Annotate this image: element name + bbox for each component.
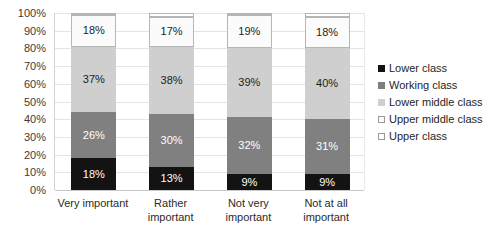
bar-segment-value-label: 17% bbox=[161, 26, 183, 37]
y-axis-tick-label: 100% bbox=[18, 8, 46, 19]
bar-segment-working-class[interactable]: 31% bbox=[305, 119, 350, 174]
legend-swatch-icon bbox=[378, 99, 385, 106]
x-axis-category-label: Very important bbox=[54, 196, 132, 210]
bar-segment-upper-middle-class[interactable]: 18% bbox=[71, 15, 116, 47]
stacked-bar[interactable]: 13%30%38%17% bbox=[149, 13, 194, 190]
legend-item[interactable]: Upper class bbox=[378, 128, 496, 144]
bar-segment-lower-class[interactable]: 9% bbox=[305, 174, 350, 190]
bar-segment-upper-class[interactable] bbox=[71, 13, 116, 15]
bar-segment-upper-class[interactable] bbox=[149, 13, 194, 17]
legend-item[interactable]: Lower middle class bbox=[378, 94, 496, 110]
x-axis-category-label: Not very important bbox=[210, 196, 288, 224]
y-axis-tick-label: 60% bbox=[24, 78, 46, 89]
bar-segment-value-label: 30% bbox=[161, 135, 183, 146]
bar-segment-upper-class[interactable] bbox=[305, 13, 350, 17]
bar-segment-upper-middle-class[interactable]: 19% bbox=[227, 15, 272, 49]
y-axis-tick-label: 80% bbox=[24, 43, 46, 54]
chart-legend: Lower classWorking classLower middle cla… bbox=[378, 60, 496, 145]
bar-segment-working-class[interactable]: 26% bbox=[71, 112, 116, 158]
bar-segment-value-label: 18% bbox=[83, 25, 105, 36]
y-axis: 0%10%20%30%40%50%60%70%80%90%100% bbox=[0, 13, 50, 190]
stacked-bar[interactable]: 9%32%39%19% bbox=[227, 13, 272, 190]
x-axis-category-label: Not at all important bbox=[287, 196, 365, 224]
legend-item[interactable]: Lower class bbox=[378, 60, 496, 76]
legend-swatch-icon bbox=[378, 65, 385, 72]
bar-group[interactable]: 9%31%40%18% bbox=[305, 13, 350, 190]
bar-segment-value-label: 19% bbox=[238, 26, 260, 37]
y-axis-tick-label: 20% bbox=[24, 149, 46, 160]
bar-segment-value-label: 26% bbox=[83, 130, 105, 141]
bar-group[interactable]: 13%30%38%17% bbox=[149, 13, 194, 190]
bar-segment-value-label: 31% bbox=[316, 141, 338, 152]
plot-area: 18%26%37%18%13%30%38%17%9%32%39%19%9%31%… bbox=[54, 13, 365, 190]
bar-segment-value-label: 37% bbox=[83, 74, 105, 85]
bar-segment-lower-class[interactable]: 18% bbox=[71, 158, 116, 190]
y-axis-tick-label: 90% bbox=[24, 25, 46, 36]
bar-segment-working-class[interactable]: 32% bbox=[227, 117, 272, 174]
legend-label: Lower middle class bbox=[389, 97, 483, 108]
bar-segment-lower-class[interactable]: 9% bbox=[227, 174, 272, 190]
y-axis-tick-label: 70% bbox=[24, 61, 46, 72]
bar-segment-value-label: 32% bbox=[238, 140, 260, 151]
bar-segment-lower-middle-class[interactable]: 39% bbox=[227, 48, 272, 117]
bar-segment-value-label: 9% bbox=[241, 177, 257, 188]
bar-group[interactable]: 9%32%39%19% bbox=[227, 13, 272, 190]
legend-swatch-icon bbox=[378, 82, 385, 89]
stacked-bar-chart: 0%10%20%30%40%50%60%70%80%90%100% 18%26%… bbox=[0, 0, 497, 240]
stacked-bar[interactable]: 18%26%37%18% bbox=[71, 13, 116, 190]
bar-segment-value-label: 9% bbox=[319, 177, 335, 188]
bar-segment-value-label: 39% bbox=[238, 77, 260, 88]
bar-segment-value-label: 18% bbox=[316, 27, 338, 38]
bar-segment-lower-middle-class[interactable]: 37% bbox=[71, 47, 116, 112]
bar-segment-value-label: 13% bbox=[161, 173, 183, 184]
bar-segment-value-label: 38% bbox=[161, 75, 183, 86]
legend-swatch-icon bbox=[378, 133, 385, 140]
y-axis-tick-label: 50% bbox=[24, 96, 46, 107]
bar-segment-lower-middle-class[interactable]: 38% bbox=[149, 47, 194, 114]
bar-segment-value-label: 18% bbox=[83, 169, 105, 180]
y-axis-tick-label: 30% bbox=[24, 131, 46, 142]
bar-group[interactable]: 18%26%37%18% bbox=[71, 13, 116, 190]
bar-segment-lower-middle-class[interactable]: 40% bbox=[305, 48, 350, 119]
stacked-bar[interactable]: 9%31%40%18% bbox=[305, 13, 350, 190]
y-axis-tick-label: 0% bbox=[30, 185, 46, 196]
legend-item[interactable]: Upper middle class bbox=[378, 111, 496, 127]
legend-label: Lower class bbox=[389, 63, 447, 74]
legend-label: Upper middle class bbox=[389, 114, 483, 125]
y-axis-tick-label: 10% bbox=[24, 167, 46, 178]
bar-segment-lower-class[interactable]: 13% bbox=[149, 167, 194, 190]
legend-item[interactable]: Working class bbox=[378, 77, 496, 93]
bar-segment-value-label: 40% bbox=[316, 78, 338, 89]
bar-segment-upper-middle-class[interactable]: 18% bbox=[305, 17, 350, 49]
legend-label: Working class bbox=[389, 80, 457, 91]
legend-label: Upper class bbox=[389, 131, 447, 142]
bar-segment-upper-class[interactable] bbox=[227, 13, 272, 15]
bar-segment-working-class[interactable]: 30% bbox=[149, 114, 194, 167]
legend-swatch-icon bbox=[378, 116, 385, 123]
bar-segment-upper-middle-class[interactable]: 17% bbox=[149, 17, 194, 47]
x-axis-category-label: Rather important bbox=[132, 196, 210, 224]
y-axis-tick-label: 40% bbox=[24, 114, 46, 125]
axis-baseline bbox=[55, 190, 364, 191]
